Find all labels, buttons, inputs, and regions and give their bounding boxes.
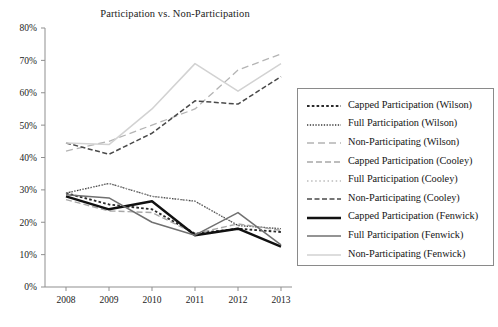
x-axis-tick-label: 2009 xyxy=(100,295,119,305)
legend-item: Full Participation (Cooley) xyxy=(298,169,493,188)
series-line xyxy=(66,77,281,155)
y-axis-tick-label: 80% xyxy=(20,23,38,33)
legend-item-label: Non-Participating (Cooley) xyxy=(348,192,460,203)
legend-swatch-icon xyxy=(307,173,341,185)
y-axis-tick-label: 10% xyxy=(20,250,38,260)
legend-item: Capped Participation (Wilson) xyxy=(298,95,493,114)
legend-item: Non-Participating (Fenwick) xyxy=(298,244,493,263)
y-axis-tick-label: 70% xyxy=(20,56,38,66)
legend-swatch-icon xyxy=(307,210,341,222)
chart-legend: Capped Participation (Wilson)Full Partic… xyxy=(297,88,494,266)
legend-swatch-icon xyxy=(307,228,341,240)
legend-item-label: Capped Participation (Fenwick) xyxy=(348,210,478,221)
legend-item: Full Participation (Fenwick) xyxy=(298,225,493,244)
data-series-group xyxy=(66,54,281,247)
y-axis-tick-label: 20% xyxy=(20,218,38,228)
y-axis-tick-label: 50% xyxy=(20,121,38,131)
legend-item-label: Non-Participating (Wilson) xyxy=(348,136,459,147)
legend-item-label: Full Participation (Wilson) xyxy=(348,117,457,128)
legend-item-label: Full Participation (Fenwick) xyxy=(348,229,463,240)
x-axis-tick-label: 2010 xyxy=(143,295,162,305)
legend-swatch-icon xyxy=(307,191,341,203)
legend-swatch-icon xyxy=(307,247,341,259)
series-line xyxy=(66,193,281,233)
legend-item: Non-Participating (Wilson) xyxy=(298,132,493,151)
y-axis-tick-label: 30% xyxy=(20,185,38,195)
legend-swatch-icon xyxy=(307,154,341,166)
axes: 0%10%20%30%40%50%60%70%80%20082009201020… xyxy=(20,23,292,305)
x-axis-tick-label: 2008 xyxy=(57,295,76,305)
legend-swatch-icon xyxy=(307,135,341,147)
legend-item: Capped Participation (Cooley) xyxy=(298,151,493,170)
legend-item: Capped Participation (Fenwick) xyxy=(298,207,493,226)
x-axis-tick-label: 2013 xyxy=(272,295,291,305)
chart-figure: Participation vs. Non-Participation 0%10… xyxy=(0,0,498,327)
legend-item-label: Full Participation (Cooley) xyxy=(348,173,458,184)
series-line xyxy=(66,64,281,145)
legend-swatch-icon xyxy=(307,117,341,129)
x-axis-tick-label: 2012 xyxy=(229,295,248,305)
y-axis-tick-label: 40% xyxy=(20,153,38,163)
legend-swatch-icon xyxy=(307,98,341,110)
legend-item: Non-Participating (Cooley) xyxy=(298,188,493,207)
legend-item-label: Capped Participation (Cooley) xyxy=(348,155,472,166)
series-line xyxy=(66,54,281,151)
x-axis-tick-label: 2011 xyxy=(186,295,205,305)
legend-item: Full Participation (Wilson) xyxy=(298,114,493,133)
legend-item-label: Non-Participating (Fenwick) xyxy=(348,248,465,259)
legend-item-label: Capped Participation (Wilson) xyxy=(348,99,472,110)
y-axis-tick-label: 0% xyxy=(24,282,37,292)
series-line xyxy=(66,195,281,245)
y-axis-tick-label: 60% xyxy=(20,88,38,98)
